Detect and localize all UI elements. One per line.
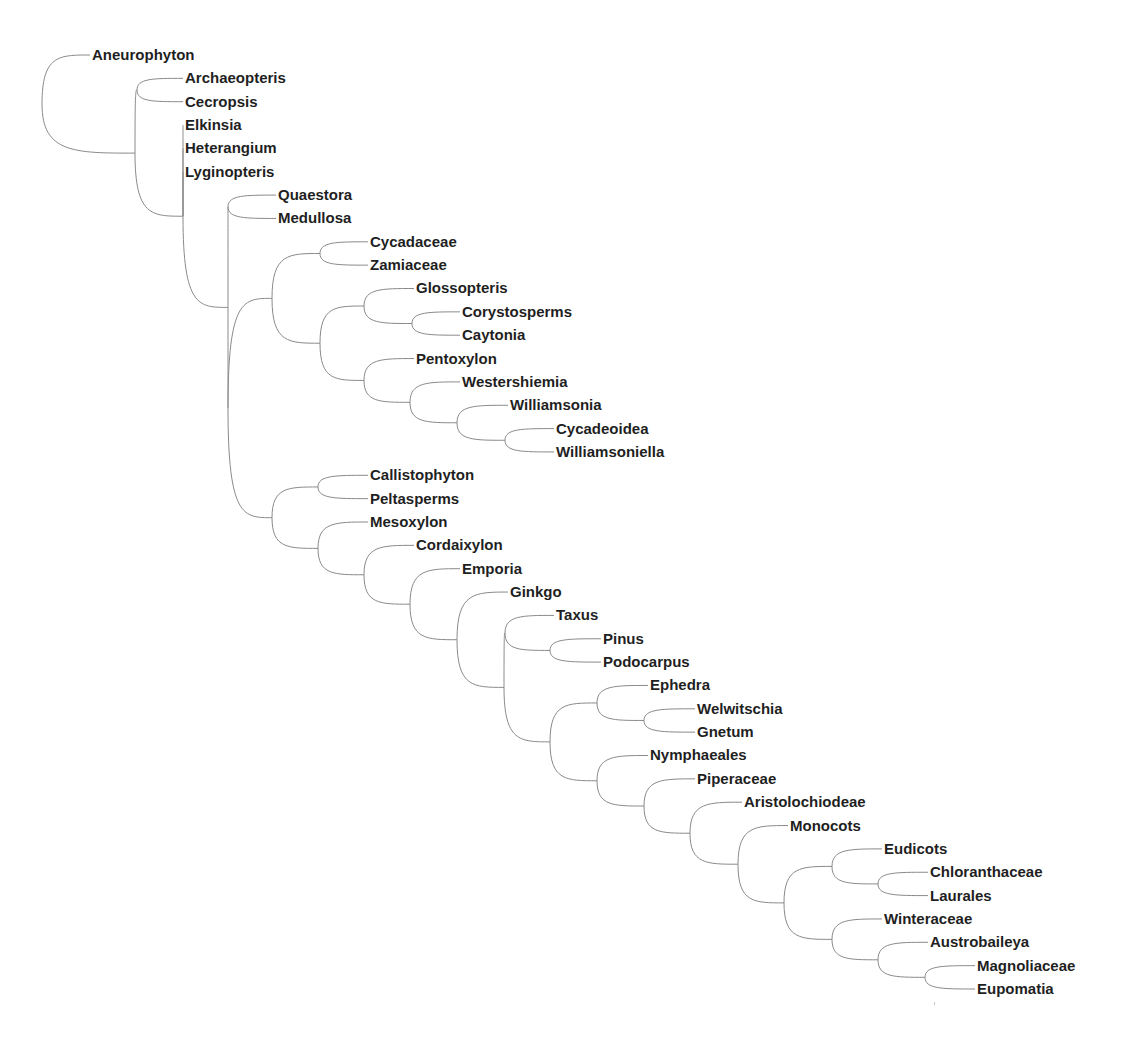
- branch-line: [925, 977, 975, 989]
- cladogram: AneurophytonArchaeopterisCecropsisElkins…: [0, 0, 1139, 1045]
- branch-line: [320, 253, 368, 265]
- taxon-label: Corystosperms: [462, 303, 572, 320]
- taxon-label: Ginkgo: [510, 583, 562, 600]
- stray-mark: [934, 1002, 935, 1005]
- branch-line: [410, 604, 457, 640]
- branch-line: [644, 709, 695, 721]
- taxon-label: Lyginopteris: [185, 163, 274, 180]
- branch-line: [412, 312, 460, 324]
- taxon-label: Williamsoniella: [556, 443, 665, 460]
- taxon-label: Monocots: [790, 817, 861, 834]
- taxon-label: Emporia: [462, 560, 523, 577]
- branch-line: [318, 487, 368, 499]
- taxon-label: Austrobaileya: [930, 933, 1030, 950]
- taxon-label: Peltasperms: [370, 490, 459, 507]
- branch-line: [738, 826, 788, 865]
- branch-line: [364, 289, 414, 307]
- taxon-label: Aneurophyton: [92, 46, 195, 63]
- branch-line: [228, 298, 272, 408]
- branch-line: [42, 55, 90, 104]
- branch-line: [42, 104, 135, 153]
- taxon-label: Heterangium: [185, 139, 277, 156]
- branch-line: [318, 475, 368, 487]
- branch-line: [183, 216, 228, 307]
- branch-line: [320, 343, 364, 380]
- branch-line: [410, 402, 457, 422]
- branch-line: [597, 685, 648, 703]
- branch-line: [878, 872, 928, 884]
- branch-line: [364, 380, 410, 402]
- branch-line: [644, 779, 695, 806]
- branch-line: [550, 639, 601, 651]
- branch-line: [272, 253, 320, 298]
- branch-line: [597, 781, 644, 806]
- taxon-label: Medullosa: [278, 209, 352, 226]
- branch-line: [690, 802, 742, 833]
- branch-line: [505, 429, 554, 441]
- taxon-label: Caytonia: [462, 326, 526, 343]
- branch-line: [410, 569, 460, 605]
- taxon-label: Pentoxylon: [416, 350, 497, 367]
- branch-line: [457, 423, 505, 441]
- branch-line: [135, 90, 137, 153]
- branch-line: [505, 615, 554, 633]
- taxon-label: Archaeopteris: [185, 69, 286, 86]
- branch-line: [228, 408, 272, 518]
- branch-line: [504, 633, 505, 687]
- branch-line: [457, 592, 508, 640]
- taxon-label: Quaestora: [278, 186, 353, 203]
- taxon-label: Winteraceae: [884, 910, 972, 927]
- taxon-label: Eupomatia: [977, 980, 1054, 997]
- branch-line: [410, 382, 460, 402]
- branch-line: [364, 545, 414, 574]
- branch-line: [412, 324, 460, 336]
- branch-line: [228, 207, 276, 219]
- branch-line: [135, 153, 183, 216]
- taxon-label: Zamiaceae: [370, 256, 447, 273]
- branch-line: [364, 306, 412, 324]
- branch-line: [457, 405, 508, 423]
- branch-line: [272, 487, 318, 518]
- branch-line: [832, 866, 878, 884]
- branch-line: [457, 640, 504, 688]
- branch-line: [318, 548, 364, 574]
- taxon-label: Williamsonia: [510, 396, 602, 413]
- taxon-label: Cycadaceae: [370, 233, 457, 250]
- branch-line: [550, 742, 597, 781]
- branch-line: [832, 939, 878, 959]
- branch-line: [272, 518, 318, 549]
- branch-line: [364, 575, 410, 604]
- taxon-label: Pinus: [603, 630, 644, 647]
- taxon-label: Callistophyton: [370, 466, 474, 483]
- branch-line: [832, 919, 882, 939]
- branch-line: [644, 720, 695, 732]
- taxon-label: Cecropsis: [185, 93, 258, 110]
- branch-line: [320, 242, 368, 254]
- branch-line: [644, 806, 690, 833]
- branch-line: [137, 78, 183, 90]
- branch-line: [550, 650, 601, 662]
- taxon-label: Piperaceae: [697, 770, 776, 787]
- branch-line: [505, 440, 554, 452]
- taxon-label: Gnetum: [697, 723, 754, 740]
- branch-line: [597, 756, 648, 781]
- branch-line: [504, 687, 550, 741]
- branch-line: [878, 960, 925, 978]
- taxon-label: Elkinsia: [185, 116, 242, 133]
- taxon-label: Ephedra: [650, 676, 711, 693]
- taxon-label: Taxus: [556, 606, 598, 623]
- branch-line: [925, 966, 975, 978]
- branch-line: [320, 306, 364, 343]
- taxon-label: Cycadeoidea: [556, 420, 649, 437]
- taxon-label: Nymphaeales: [650, 746, 747, 763]
- taxon-labels: AneurophytonArchaeopterisCecropsisElkins…: [92, 46, 1075, 997]
- branch-line: [597, 703, 644, 721]
- branch-line: [690, 833, 738, 864]
- taxon-label: Westershiemia: [462, 373, 568, 390]
- branch-line: [364, 359, 414, 381]
- taxon-label: Eudicots: [884, 840, 947, 857]
- branch-line: [137, 90, 183, 102]
- branch-line: [878, 884, 928, 896]
- taxon-label: Glossopteris: [416, 279, 508, 296]
- branch-line: [784, 903, 832, 939]
